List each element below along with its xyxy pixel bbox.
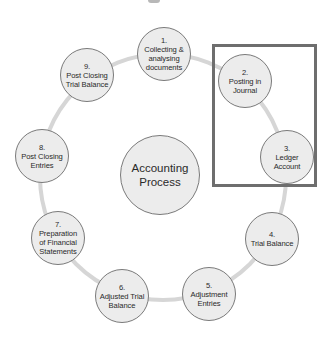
step-number: 9. bbox=[84, 62, 90, 71]
step-node-7-financial-statements: 7. Preparation of Financial Statements bbox=[31, 211, 85, 265]
step-node-9-post-closing-trial-balance: 9. Post Closing Trial Balance bbox=[60, 48, 114, 102]
step-number: 1. bbox=[161, 36, 167, 45]
step-node-6-adjusted-trial-balance: 6. Adjusted Trial Balance bbox=[95, 269, 149, 323]
accounting-cycle-diagram: Accounting Process 1. Collecting & analy… bbox=[0, 0, 331, 342]
center-label: Accounting Process bbox=[132, 161, 189, 189]
step-label: Trial Balance bbox=[251, 239, 294, 248]
step-label: Collecting & analysing documents bbox=[144, 45, 183, 72]
step-number: 4. bbox=[269, 230, 275, 239]
step-number: 7. bbox=[55, 220, 61, 229]
step-number: 8. bbox=[39, 143, 45, 152]
step-label: Preparation of Financial Statements bbox=[39, 229, 77, 256]
step-number: 6. bbox=[119, 283, 125, 292]
step-label: Adjustment Entries bbox=[191, 290, 228, 308]
step-node-4-trial-balance: 4. Trial Balance bbox=[245, 212, 299, 266]
step-label: Adjusted Trial Balance bbox=[100, 292, 145, 310]
step-number: 5. bbox=[206, 281, 212, 290]
step-label: Post Closing Trial Balance bbox=[66, 71, 109, 89]
step-label: Post Closing Entries bbox=[21, 152, 62, 170]
center-node-accounting-process: Accounting Process bbox=[120, 135, 200, 215]
step-node-1-collecting-analysing: 1. Collecting & analysing documents bbox=[137, 27, 191, 81]
step-node-5-adjustment-entries: 5. Adjustment Entries bbox=[182, 267, 236, 321]
highlight-box-steps-2-3 bbox=[212, 44, 317, 187]
step-node-8-post-closing-entries: 8. Post Closing Entries bbox=[15, 129, 69, 183]
